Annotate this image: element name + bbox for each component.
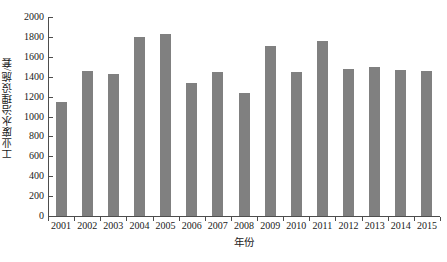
bar bbox=[212, 72, 223, 216]
x-axis-line bbox=[48, 216, 440, 217]
bar bbox=[108, 74, 119, 216]
x-tick-label: 2015 bbox=[417, 221, 437, 231]
bar bbox=[134, 37, 145, 216]
x-tick-label: 2012 bbox=[339, 221, 359, 231]
bar-chart: 工业废水治理设施/套 02004006008001000120014001600… bbox=[0, 0, 447, 262]
y-tick-label: 1600 bbox=[24, 52, 44, 62]
bar bbox=[369, 67, 380, 216]
y-axis-title-text: 工业废水治理设施/套 bbox=[3, 57, 14, 159]
x-tick-label: 2004 bbox=[129, 221, 149, 231]
y-axis-tick-labels: 0200400600800100012001400160018002000 bbox=[16, 17, 47, 216]
y-tick-label: 800 bbox=[29, 131, 44, 141]
y-tick-label: 200 bbox=[29, 191, 44, 201]
y-tick-label: 1400 bbox=[24, 72, 44, 82]
x-tick-label: 2009 bbox=[260, 221, 280, 231]
x-tick-mark bbox=[440, 217, 441, 221]
x-tick-label: 2010 bbox=[286, 221, 306, 231]
y-tick-label: 1200 bbox=[24, 92, 44, 102]
y-tick-label: 1800 bbox=[24, 32, 44, 42]
x-tick-label: 2013 bbox=[365, 221, 385, 231]
x-tick-label: 2002 bbox=[77, 221, 97, 231]
x-tick-label: 2001 bbox=[51, 221, 71, 231]
x-tick-label: 2007 bbox=[208, 221, 228, 231]
x-axis-title: 年份 bbox=[48, 238, 440, 249]
bar bbox=[317, 41, 328, 216]
y-tick-label: 2000 bbox=[24, 12, 44, 22]
x-tick-label: 2011 bbox=[313, 221, 333, 231]
y-tick-mark bbox=[49, 216, 53, 217]
y-axis-title: 工业废水治理设施/套 bbox=[0, 0, 16, 216]
bar-series bbox=[48, 17, 440, 216]
bar bbox=[239, 93, 250, 216]
bar bbox=[291, 72, 302, 216]
x-tick-label: 2008 bbox=[234, 221, 254, 231]
y-tick-label: 0 bbox=[39, 211, 44, 221]
bar bbox=[56, 102, 67, 216]
bar bbox=[343, 69, 354, 216]
plot-area bbox=[48, 17, 440, 216]
y-tick-label: 1000 bbox=[24, 112, 44, 122]
x-tick-label: 2003 bbox=[103, 221, 123, 231]
x-tick-label: 2006 bbox=[182, 221, 202, 231]
bar bbox=[186, 83, 197, 216]
x-tick-label: 2014 bbox=[391, 221, 411, 231]
x-tick-label: 2005 bbox=[156, 221, 176, 231]
bar bbox=[421, 71, 432, 216]
bar bbox=[160, 34, 171, 216]
y-tick-label: 600 bbox=[29, 151, 44, 161]
y-tick-label: 400 bbox=[29, 171, 44, 181]
bar bbox=[265, 46, 276, 216]
x-axis-tick-labels: 2001200220032004200520062007200820092010… bbox=[48, 221, 440, 235]
bar bbox=[82, 71, 93, 216]
bar bbox=[395, 70, 406, 216]
